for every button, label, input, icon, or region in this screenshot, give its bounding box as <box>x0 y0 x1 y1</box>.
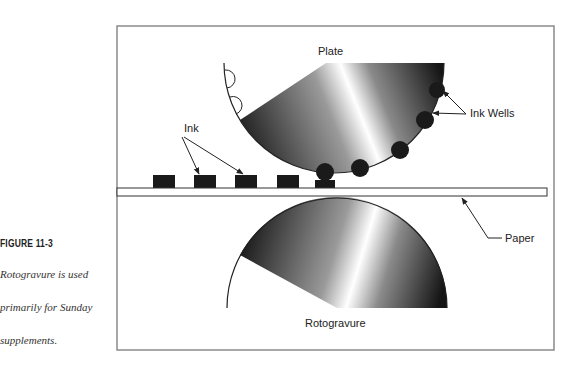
ink-wells-arrow-1 <box>443 91 466 114</box>
paper-arrow <box>462 198 502 238</box>
rotogravure-diagram: Plate Ink Ink Wells Paper Rotogravure <box>0 0 578 376</box>
ink-arrow-2 <box>184 137 243 174</box>
rotogravure-label: Rotogravure <box>305 317 366 329</box>
paper-label: Paper <box>505 232 535 244</box>
ink-wells-arrow-2 <box>433 113 466 114</box>
plate-cylinder <box>224 63 445 181</box>
plate-label: Plate <box>318 45 343 57</box>
paper-strip <box>117 188 547 196</box>
ink-arrow-1 <box>182 137 199 174</box>
ink-label: Ink <box>184 122 199 134</box>
rotogravure-cylinder <box>227 197 447 308</box>
ink-deposits <box>153 175 335 189</box>
ink-wells-label: Ink Wells <box>470 107 515 119</box>
